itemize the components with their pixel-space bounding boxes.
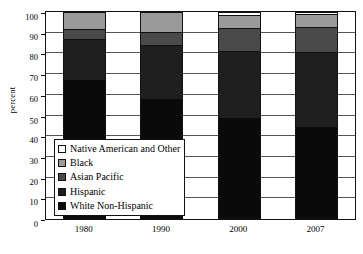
bar-segment-asian-pacific — [63, 29, 106, 39]
y-tick-label: 40 — [12, 136, 38, 137]
bar-segment-asian-pacific — [295, 27, 338, 53]
x-tick-label: 2007 — [285, 224, 345, 234]
x-tick-label: 2000 — [208, 224, 268, 234]
legend-swatch-icon — [58, 188, 66, 196]
bar-segment-native-american-and-other — [140, 11, 183, 12]
legend-item: Black — [58, 156, 180, 170]
x-tick-label: 1990 — [131, 224, 191, 234]
bar-segment-black — [140, 12, 183, 32]
legend-swatch-icon — [58, 145, 66, 153]
x-axis-tick-labels: 1980199020002007 — [45, 224, 356, 244]
y-tick-label: 10 — [12, 198, 38, 199]
legend-swatch-icon — [58, 202, 66, 210]
y-tick-label: 20 — [12, 177, 38, 178]
y-tick-mark — [41, 220, 45, 221]
bar-segment-hispanic — [218, 51, 261, 117]
legend-item-label: Black — [70, 158, 93, 168]
y-tick-label: 70 — [12, 74, 38, 75]
legend-item-label: Native American and Other — [70, 144, 180, 154]
bar-2007 — [295, 12, 338, 219]
y-tick-label: 50 — [12, 115, 38, 116]
legend-swatch-icon — [58, 173, 66, 181]
bar-segment-black — [218, 15, 261, 27]
y-tick-label: 90 — [12, 32, 38, 33]
stacked-bar-chart: percent 0102030405060708090100 198019902… — [0, 0, 363, 254]
bar-segment-black — [63, 12, 106, 29]
y-tick-label: 100 — [12, 12, 38, 13]
bar-segment-asian-pacific — [218, 28, 261, 52]
legend-item: White Non-Hispanic — [58, 199, 180, 213]
x-tick-label: 1980 — [54, 224, 114, 234]
legend-item: Asian Pacific — [58, 170, 180, 184]
y-tick-label: 80 — [12, 53, 38, 54]
y-tick-label: 60 — [12, 94, 38, 95]
bar-segment-hispanic — [140, 45, 183, 99]
bar-segment-native-american-and-other — [295, 12, 338, 14]
bar-segment-black — [295, 14, 338, 26]
y-tick-label: 0 — [12, 219, 38, 220]
bar-segment-hispanic — [63, 39, 106, 80]
y-tick-label: 30 — [12, 156, 38, 157]
bar-segment-white-non-hispanic — [218, 118, 261, 219]
legend-item: Native American and Other — [58, 142, 180, 156]
bar-segment-native-american-and-other — [63, 11, 106, 12]
legend-item-label: Hispanic — [70, 187, 106, 197]
bar-segment-hispanic — [295, 52, 338, 127]
bar-segment-white-non-hispanic — [295, 127, 338, 219]
bar-2000 — [218, 12, 261, 219]
legend-item-label: White Non-Hispanic — [70, 201, 153, 211]
bar-segment-asian-pacific — [140, 32, 183, 45]
legend-item: Hispanic — [58, 185, 180, 199]
legend-item-label: Asian Pacific — [70, 172, 124, 182]
legend-swatch-icon — [58, 159, 66, 167]
bar-segment-native-american-and-other — [218, 12, 261, 15]
y-axis-tick-labels: 0102030405060708090100 — [11, 11, 41, 220]
chart-legend: Native American and OtherBlackAsian Paci… — [54, 139, 185, 216]
